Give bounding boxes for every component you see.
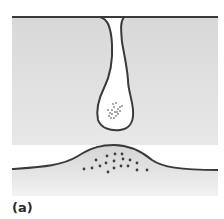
panel-label: (a) xyxy=(12,200,33,215)
diagram-canvas xyxy=(0,0,224,219)
